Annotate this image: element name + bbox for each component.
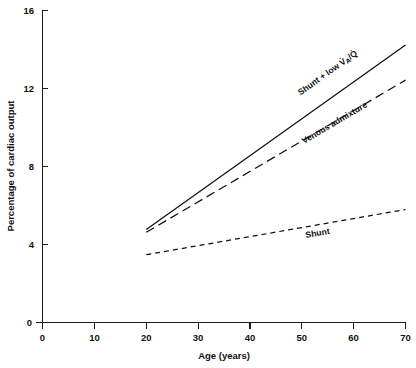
x-tick-label-50: 50: [297, 332, 308, 343]
series-line-shunt-plus-low-va-q: [146, 45, 405, 229]
x-tick-label-20: 20: [141, 332, 152, 343]
x-tick-label-60: 60: [348, 332, 359, 343]
x-tick-label-30: 30: [193, 332, 204, 343]
y-tick-label-12: 12: [23, 83, 34, 94]
series-line-venous-admixture: [146, 80, 405, 232]
x-tick-label-40: 40: [245, 332, 256, 343]
x-axis-title: Age (years): [198, 350, 250, 361]
y-axis-title: Percentage of cardiac output: [5, 100, 16, 232]
line-chart-plot: 16 12 8 4 0 0 10 20 30 40 50 60 70: [0, 0, 416, 368]
series-line-shunt: [146, 210, 405, 255]
chart-figure: 16 12 8 4 0 0 10 20 30 40 50 60 70: [0, 0, 416, 368]
y-tick-label-16: 16: [23, 5, 34, 16]
series-label-shunt-plus-low-va-q: Shunt + low V̇A/Q̇: [278, 38, 373, 110]
y-tick-label-8: 8: [29, 161, 34, 172]
y-tick-label-4: 4: [29, 239, 35, 250]
series-label-venous-admixture: Venous admixture: [300, 99, 369, 145]
x-tick-label-0: 0: [40, 332, 45, 343]
x-tick-label-70: 70: [400, 332, 411, 343]
y-tick-label-0: 0: [27, 317, 32, 328]
x-tick-label-10: 10: [89, 332, 100, 343]
series-label-shunt: Shunt: [305, 226, 331, 240]
x-tick-marks: [43, 323, 406, 330]
series-label-shunt-plus-low-va-q-group: Shunt + low V̇A/Q̇: [278, 38, 373, 110]
x-tick-labels: 0 10 20 30 40 50 60 70: [40, 332, 411, 343]
series-label-prefix: Shunt + low: [296, 59, 343, 97]
y-tick-labels: 16 12 8 4 0: [23, 5, 34, 328]
